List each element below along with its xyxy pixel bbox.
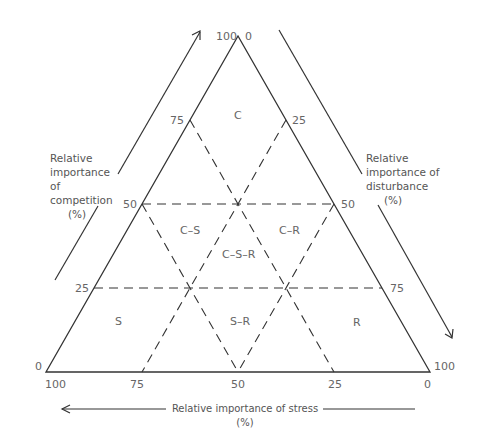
base-tick-0: 0: [424, 378, 431, 391]
disturbance-line3: disturbance: [366, 179, 446, 193]
region-sr: S–R: [230, 315, 250, 328]
right-tick-75: 75: [390, 282, 404, 295]
region-r: R: [353, 316, 361, 329]
base-tick-25: 25: [328, 378, 342, 391]
right-tick-50: 50: [341, 198, 355, 211]
right-tick-25: 25: [292, 114, 306, 127]
disturbance-line1: Relative: [366, 151, 446, 165]
disturbance-line2: importance of: [366, 165, 446, 179]
left-tick-25: 25: [75, 282, 89, 295]
top-vertex-left-label: 100: [216, 30, 237, 43]
competition-line2: importance of: [50, 165, 120, 193]
competition-line3: competition: [50, 193, 120, 207]
left-tick-50: 50: [123, 198, 137, 211]
region-csr: C–S–R: [222, 248, 255, 261]
competition-line1: Relative: [50, 151, 120, 165]
base-tick-50: 50: [231, 378, 245, 391]
dashed-grid: [94, 120, 382, 372]
competition-axis-title: Relative importance of competition (%): [50, 151, 120, 221]
region-c: C: [234, 109, 242, 122]
dash-right-25-to-base-75: [142, 120, 286, 372]
disturbance-axis-title: Relative importance of disturbance (%): [366, 151, 446, 207]
top-vertex-right-label: 0: [245, 30, 252, 43]
stress-axis-title: Relative importance of stress (%): [168, 402, 322, 430]
competition-line4: (%): [50, 207, 120, 221]
left-tick-75: 75: [170, 114, 184, 127]
region-cs: C–S: [180, 224, 200, 237]
base-tick-75: 75: [130, 378, 144, 391]
base-tick-100: 100: [45, 378, 66, 391]
region-s: S: [115, 315, 122, 328]
disturbance-line4: (%): [366, 193, 446, 207]
dash-left-75-to-base-25: [190, 120, 334, 372]
region-cr: C–R: [279, 224, 300, 237]
bottom-right-vertex-label: 100: [434, 360, 455, 373]
bottom-left-vertex-label: 0: [35, 360, 42, 373]
